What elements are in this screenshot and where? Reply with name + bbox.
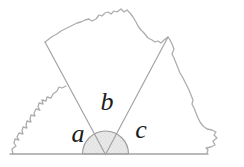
angle-a-label: a xyxy=(72,119,85,148)
diagram-canvas: a b c xyxy=(0,0,244,167)
angle-b-label: b xyxy=(101,87,114,116)
state-outline-west-border xyxy=(12,86,66,154)
angle-diagram: a b c xyxy=(0,0,244,167)
semicircle-angle-marker xyxy=(83,131,129,154)
angle-c-label: c xyxy=(135,115,147,144)
